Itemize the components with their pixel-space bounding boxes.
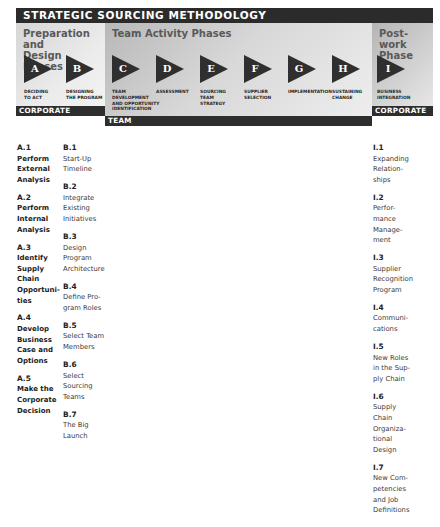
task-code: A.1 <box>17 143 65 154</box>
task-item: B.3DesignProgramArchitecture <box>63 232 111 274</box>
phase-label: SUSTAININGCHANGE <box>332 89 362 101</box>
phase-letter: D <box>160 62 174 76</box>
task-text: Options <box>17 356 65 367</box>
phase-label: IMPLEMENTATION <box>288 89 332 95</box>
task-text: Opportuni- <box>17 285 65 296</box>
column-a-tasks: A.1PerformExternalAnalysisA.2PerformInte… <box>17 143 65 424</box>
task-item: A.5Make theCorporateDecision <box>17 374 65 416</box>
team-bar: TEAM <box>105 116 372 126</box>
task-item: B.6SelectSourcingTeams <box>63 360 111 402</box>
task-text: Relation- <box>373 164 433 175</box>
column-i-tasks: I.1ExpandingRelation-shipsI.2Perfor-manc… <box>373 143 433 523</box>
task-code: A.3 <box>17 243 65 254</box>
corporate-bar-right: CORPORATE <box>372 106 433 116</box>
task-text: Launch <box>63 431 111 442</box>
task-text: in the Sup- <box>373 363 433 374</box>
task-text: Perfor- <box>373 203 433 214</box>
phase-label: SUPPLIERSELECTION <box>244 89 271 101</box>
task-code: I.4 <box>373 303 433 314</box>
phase-letter: B <box>70 62 84 76</box>
task-code: B.4 <box>63 282 111 293</box>
task-item: A.3IdentifySupplyChainOpportuni-ties <box>17 243 65 307</box>
task-text: ties <box>17 296 65 307</box>
task-text: Case and <box>17 345 65 356</box>
task-code: A.5 <box>17 374 65 385</box>
task-text: Make the <box>17 384 65 395</box>
task-text: Recognition <box>373 274 433 285</box>
phase-letter: F <box>248 62 262 76</box>
task-item: A.4DevelopBusinessCase andOptions <box>17 313 65 366</box>
task-item: I.4Communi-cations <box>373 303 433 335</box>
task-code: I.3 <box>373 253 433 264</box>
task-text: External <box>17 164 65 175</box>
task-text: Teams <box>63 392 111 403</box>
task-text: mance <box>373 214 433 225</box>
task-code: B.2 <box>63 182 111 193</box>
task-text: Supplier <box>373 264 433 275</box>
task-text: tional <box>373 434 433 445</box>
task-text: and Job <box>373 495 433 506</box>
phase-label: DECIDINGTO ACT <box>24 89 48 101</box>
task-text: Communi- <box>373 313 433 324</box>
task-text: Identify <box>17 253 65 264</box>
task-text: Develop <box>17 324 65 335</box>
task-text: New Roles <box>373 353 433 364</box>
task-text: Timeline <box>63 164 111 175</box>
task-code: B.3 <box>63 232 111 243</box>
task-code: I.6 <box>373 392 433 403</box>
task-text: Chain <box>17 274 65 285</box>
phase-label: DESIGNINGTHE PROGRAM <box>66 89 102 101</box>
task-item: B.2IntegrateExistingInitiatives <box>63 182 111 224</box>
task-code: I.2 <box>373 193 433 204</box>
task-text: ships <box>373 175 433 186</box>
task-text: gram Roles <box>63 303 111 314</box>
task-text: The Big <box>63 420 111 431</box>
task-text: Supply <box>17 264 65 275</box>
task-item: B.4Define Pro-gram Roles <box>63 282 111 314</box>
corporate-bar-left: CORPORATE <box>16 106 105 116</box>
task-text: Select Team <box>63 331 111 342</box>
task-text: ment <box>373 235 433 246</box>
task-text: Perform <box>17 154 65 165</box>
column-b-tasks: B.1Start-UpTimelineB.2IntegrateExistingI… <box>63 143 111 449</box>
task-code: B.5 <box>63 321 111 332</box>
phase-label: BUSINESSINTEGRATION <box>377 89 410 101</box>
task-item: B.7The BigLaunch <box>63 410 111 442</box>
phase-letter: G <box>292 62 306 76</box>
task-text: Perform <box>17 203 65 214</box>
task-text: Definitions <box>373 505 433 516</box>
team-panel-title: Team Activity Phases <box>112 28 231 39</box>
phase-label: SOURCINGTEAMSTRATEGY <box>200 89 226 106</box>
task-text: Initiatives <box>63 214 111 225</box>
task-text: Define Pro- <box>63 292 111 303</box>
task-item: I.2Perfor-manceManage-ment <box>373 193 433 246</box>
task-text: cations <box>373 324 433 335</box>
task-item: I.5New Rolesin the Sup-ply Chain <box>373 342 433 384</box>
task-item: I.1ExpandingRelation-ships <box>373 143 433 185</box>
task-text: Internal <box>17 214 65 225</box>
phase-letter: C <box>116 62 130 76</box>
task-text: New Com- <box>373 473 433 484</box>
task-text: Expanding <box>373 154 433 165</box>
task-text: petencies <box>373 484 433 495</box>
phase-letter: A <box>28 62 42 76</box>
task-text: Analysis <box>17 225 65 236</box>
task-item: I.7New Com-petenciesand JobDefinitions <box>373 463 433 516</box>
task-text: Decision <box>17 406 65 417</box>
task-text: Members <box>63 342 111 353</box>
task-text: Sourcing <box>63 381 111 392</box>
task-code: A.4 <box>17 313 65 324</box>
task-text: Design <box>373 445 433 456</box>
task-item: A.1PerformExternalAnalysis <box>17 143 65 185</box>
task-code: I.1 <box>373 143 433 154</box>
phase-letter: E <box>204 62 218 76</box>
task-code: B.6 <box>63 360 111 371</box>
task-code: B.1 <box>63 143 111 154</box>
task-text: ply Chain <box>373 374 433 385</box>
task-text: Select <box>63 371 111 382</box>
task-text: Architecture <box>63 264 111 275</box>
task-text: Start-Up <box>63 154 111 165</box>
task-text: Program <box>63 253 111 264</box>
task-code: B.7 <box>63 410 111 421</box>
task-text: Organiza- <box>373 424 433 435</box>
